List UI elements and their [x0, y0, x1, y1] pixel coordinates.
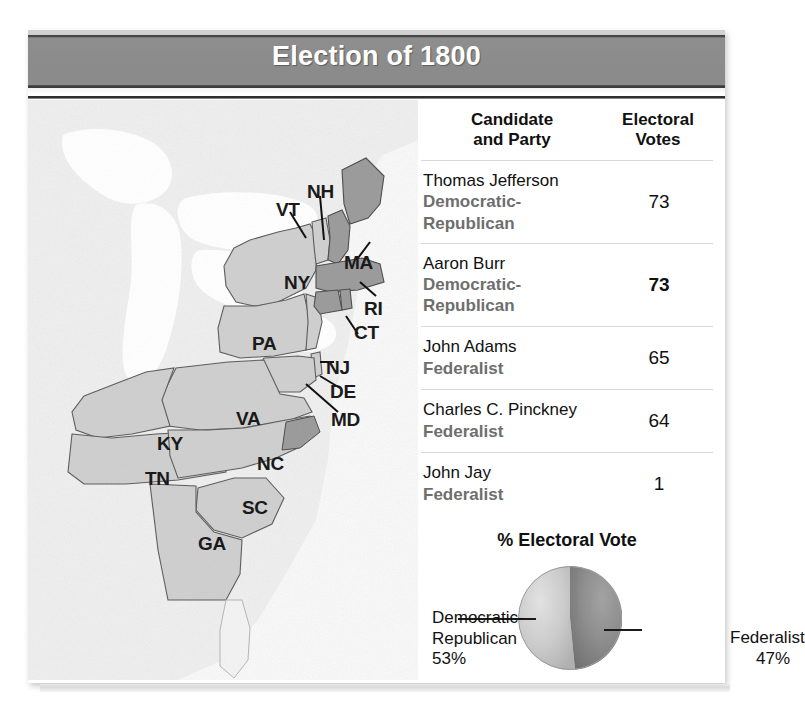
candidate-cell: Aaron Burr Democratic-Republican [421, 253, 605, 317]
map-state-label-ny: NY [284, 272, 310, 294]
results-table: Candidate and Party Electoral Votes Thom… [421, 110, 713, 515]
candidate-name: Charles C. Pinckney [423, 399, 605, 420]
card-bottom-edge [40, 684, 730, 692]
candidate-party: Democratic-Republican [423, 274, 605, 317]
title-band: Election of 1800 [28, 30, 725, 94]
column-header-candidate-line1: Candidate [421, 110, 603, 130]
electoral-votes-cell: 64 [605, 410, 713, 432]
table-row: John Jay Federalist 1 [421, 453, 713, 515]
map-state-label-ct: CT [354, 322, 379, 344]
table-row: John Adams Federalist 65 [421, 327, 713, 389]
map-state-label-pa: PA [252, 333, 276, 355]
map-state-label-vt: VT [276, 199, 300, 221]
column-header-candidate-line2: and Party [421, 130, 603, 150]
pie-chart-title: % Electoral Vote [421, 530, 713, 551]
candidate-cell: Thomas Jefferson Democratic-Republican [421, 170, 605, 234]
pie-label-federalist: Federalist 47% [730, 628, 805, 669]
candidate-party: Federalist [423, 484, 605, 505]
candidate-party: Federalist [423, 421, 605, 442]
map-state-label-sc: SC [242, 497, 268, 519]
map-state-label-md: MD [331, 409, 360, 431]
page-title: Election of 1800 [28, 41, 725, 72]
candidate-name: Thomas Jefferson [423, 170, 605, 191]
pie-label-democratic-republican: Democratic- Republican 53% [432, 608, 524, 670]
map-state-label-va: VA [236, 408, 260, 430]
candidate-name: John Adams [423, 336, 605, 357]
pie-value-dr: 53% [432, 649, 524, 670]
electoral-votes-cell: 73 [605, 191, 713, 213]
column-header-candidate: Candidate and Party [421, 110, 603, 150]
column-header-votes-line2: Votes [603, 130, 713, 150]
election-map-card: Election of 1800 [28, 30, 725, 683]
map-state-label-ma: MA [344, 252, 373, 274]
table-header-row: Candidate and Party Electoral Votes [421, 110, 713, 160]
pie-label-federalist-text: Federalist [730, 628, 805, 649]
table-row: Aaron Burr Democratic-Republican 73 [421, 244, 713, 326]
pie-chart-graphic: Democratic- Republican 53% Federalist 47… [518, 566, 622, 670]
candidate-party: Democratic-Republican [423, 191, 605, 234]
column-header-votes-line1: Electoral [603, 110, 713, 130]
map-state-label-ky: KY [157, 433, 183, 455]
electoral-vote-pie-chart: % Electoral Vote [421, 530, 721, 690]
title-divider-rule [28, 96, 725, 99]
pie-label-dr-line2: Republican [432, 629, 524, 650]
map-state-label-tn: TN [145, 468, 170, 490]
map-state-label-nj: NJ [326, 357, 350, 379]
candidate-cell: John Jay Federalist [421, 462, 605, 505]
candidate-party: Federalist [423, 358, 605, 379]
map-illustration [28, 100, 418, 680]
map-state-label-ri: RI [364, 298, 382, 320]
map-state-label-de: DE [330, 381, 356, 403]
electoral-votes-cell: 65 [605, 347, 713, 369]
pie-value-federalist: 47% [730, 649, 805, 670]
map-state-label-nc: NC [257, 453, 284, 475]
candidate-name: Aaron Burr [423, 253, 605, 274]
pie-leader-line-right [604, 629, 642, 631]
electoral-votes-cell: 73 [605, 274, 713, 296]
table-row: Thomas Jefferson Democratic-Republican 7… [421, 161, 713, 243]
candidate-cell: Charles C. Pinckney Federalist [421, 399, 605, 442]
candidate-cell: John Adams Federalist [421, 336, 605, 379]
column-header-electoral-votes: Electoral Votes [603, 110, 713, 150]
pie-label-dr-line1: Democratic- [432, 608, 524, 629]
candidate-name: John Jay [423, 462, 605, 483]
map-state-label-nh: NH [307, 181, 334, 203]
table-row: Charles C. Pinckney Federalist 64 [421, 390, 713, 452]
electoral-votes-cell: 1 [605, 473, 713, 495]
election-map: VT NH MA NY RI CT PA NJ DE MD VA KY TN N… [28, 100, 418, 680]
map-state-label-ga: GA [198, 533, 226, 555]
